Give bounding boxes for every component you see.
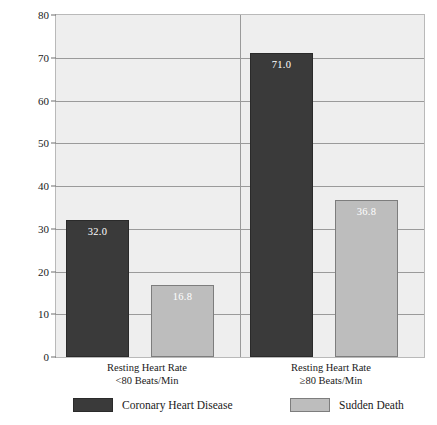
- bar-value-label: 32.0: [67, 226, 128, 237]
- legend-label-sudden-death: Sudden Death: [339, 399, 404, 411]
- y-tick-label-0: 0: [44, 351, 57, 363]
- x-axis-category-label-0: Resting Heart Rate <80 Beats/Min: [67, 361, 227, 387]
- x-axis-category-label-1: Resting Heart Rate ≥80 Beats/Min: [251, 361, 411, 387]
- y-tick-label-40: 40: [38, 180, 56, 192]
- legend-swatch-sudden-death: [290, 398, 330, 412]
- y-tick-label-10: 10: [38, 308, 56, 320]
- category-1-line2: ≥80 Beats/Min: [251, 374, 411, 387]
- y-tick-label-50: 50: [38, 137, 56, 149]
- bar-chart: 10-Year Age-Adjusted Mortality (1958-68)…: [0, 0, 437, 425]
- bar-value-label: 16.8: [152, 291, 213, 302]
- category-1-line1: Resting Heart Rate: [291, 362, 371, 373]
- y-tick-label-60: 60: [38, 95, 56, 107]
- bar-value-label: 71.0: [251, 59, 312, 70]
- category-0-line2: <80 Beats/Min: [67, 374, 227, 387]
- bar-value-label: 36.8: [336, 206, 397, 217]
- bar-sudden-death-group-0: 16.8: [151, 285, 214, 357]
- legend-swatch-coronary-heart-disease: [73, 398, 113, 412]
- bar-coronary-heart-disease-group-0: 32.0: [66, 220, 129, 357]
- y-tick-label-70: 70: [38, 52, 56, 64]
- y-tick-label-80: 80: [38, 9, 56, 21]
- legend-item-coronary-heart-disease: Coronary Heart Disease: [73, 398, 233, 412]
- y-tick-label-20: 20: [38, 266, 56, 278]
- y-tick-label-30: 30: [38, 223, 56, 235]
- bar-sudden-death-group-1: 36.8: [335, 200, 398, 357]
- legend-label-coronary-heart-disease: Coronary Heart Disease: [122, 399, 233, 411]
- group-divider-1: [240, 15, 241, 357]
- category-0-line1: Resting Heart Rate: [107, 362, 187, 373]
- plot-area: 0102030405060708032.071.016.836.8: [55, 14, 425, 358]
- legend-item-sudden-death: Sudden Death: [290, 398, 404, 412]
- bar-coronary-heart-disease-group-1: 71.0: [250, 53, 313, 357]
